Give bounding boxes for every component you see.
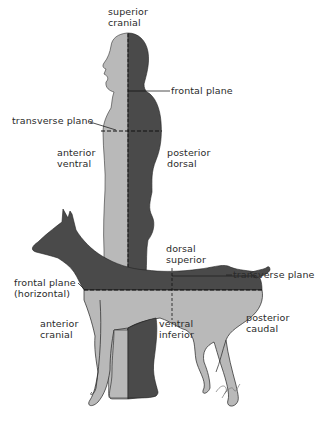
human-anterior-ventral-label: anterior ventral (57, 147, 95, 169)
label-frontal-plane: frontal plane (14, 277, 76, 288)
dog-dorsal-superior-label: dorsal superior (166, 243, 206, 265)
label-posterior: posterior (246, 312, 290, 323)
label-ventral: ventral (159, 318, 194, 329)
label-dorsal: dorsal (166, 243, 206, 254)
dog-frontal-plane-label: frontal plane (horizontal) (14, 277, 76, 299)
dog-ventral-inferior-label: ventral inferior (159, 318, 194, 340)
illustration (0, 0, 320, 424)
label-transverse-plane: transverse plane (233, 269, 315, 280)
anatomical-planes-diagram: superior cranial frontal plane transvers… (0, 0, 320, 424)
human-superior-cranial-label: superior cranial (108, 6, 148, 28)
label-superior: superior (108, 6, 148, 17)
label-anterior: anterior (57, 147, 95, 158)
label-frontal-plane: frontal plane (171, 85, 233, 96)
label-transverse-plane: transverse plane (12, 115, 94, 126)
label-cranial: cranial (40, 329, 78, 340)
label-anterior: anterior (40, 318, 78, 329)
label-caudal: caudal (246, 323, 290, 334)
dog-anterior-cranial-label: anterior cranial (40, 318, 78, 340)
label-superior: superior (166, 254, 206, 265)
label-ventral: ventral (57, 158, 95, 169)
label-inferior: inferior (159, 329, 194, 340)
human-frontal-plane-label: frontal plane (171, 85, 233, 96)
label-posterior: posterior (167, 147, 211, 158)
dog-transverse-plane-label: transverse plane (233, 269, 315, 280)
label-horizontal: (horizontal) (14, 288, 76, 299)
human-lower-leg-posterior (128, 318, 158, 398)
label-dorsal: dorsal (167, 158, 211, 169)
label-cranial: cranial (108, 17, 148, 28)
dog-posterior-caudal-label: posterior caudal (246, 312, 290, 334)
human-posterior-dorsal-label: posterior dorsal (167, 147, 211, 169)
human-transverse-plane-label: transverse plane (12, 115, 94, 126)
